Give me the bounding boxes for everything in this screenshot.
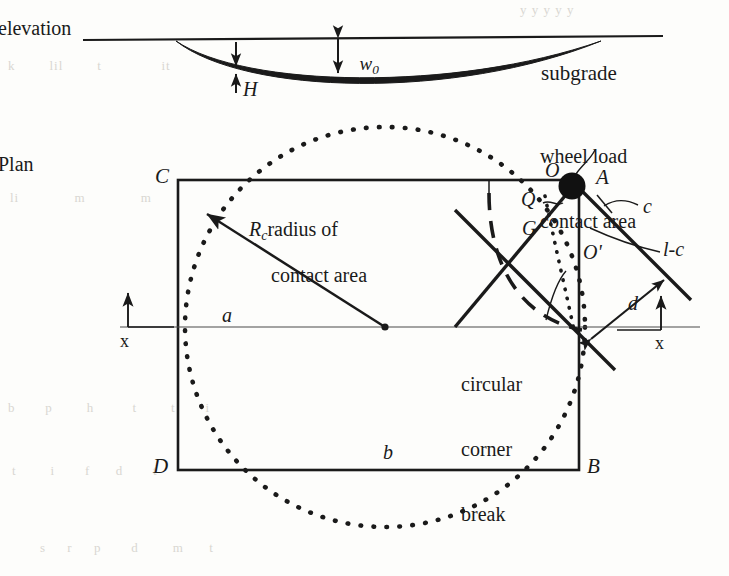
radius-text-line1: radius of <box>267 218 338 240</box>
point-g-label: G <box>522 218 536 240</box>
wheel-load-line1: wheel load <box>540 146 636 168</box>
radius-text-line2: contact area <box>271 265 367 287</box>
corner-break-annotation: circular corner break <box>461 331 522 547</box>
radius-annotation: Rcradius of contact area <box>239 197 367 308</box>
dimension-b-label: b <box>383 442 393 464</box>
dimension-d-label: d <box>628 293 638 315</box>
corner-break-line1: circular <box>461 374 522 396</box>
radius-symbol: R <box>249 218 261 240</box>
wheel-load-line2: contact area <box>540 211 636 233</box>
vertex-b-label: B <box>587 455 600 478</box>
dimension-l-minus-c-label: l-c <box>663 239 684 261</box>
left-axis-x-label: x <box>120 332 129 351</box>
deflected-slab-shape <box>176 41 601 83</box>
dimension-a-label: a <box>222 305 232 327</box>
plan-view-label: Plan <box>0 154 34 176</box>
h-label: H <box>243 79 257 101</box>
elevation-view-label: elevation <box>0 18 71 40</box>
right-axis-x-label: x <box>655 334 664 353</box>
dimension-c-label: c <box>643 196 652 218</box>
corner-break-line2: corner <box>461 439 522 461</box>
point-q-label: Q <box>521 189 535 211</box>
vertex-c-label: C <box>155 165 169 188</box>
corner-break-line3: break <box>461 504 522 526</box>
vertex-d-label: D <box>153 455 168 478</box>
circle-center-dot <box>381 323 388 330</box>
wheel-load-annotation: wheel load contact area <box>540 103 636 254</box>
subgrade-label: subgrade <box>541 62 617 85</box>
w0-label: w0 <box>350 33 379 77</box>
